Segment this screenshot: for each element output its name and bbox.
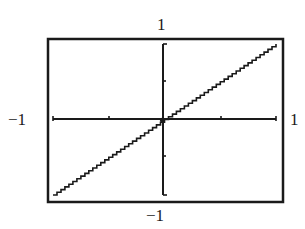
origin-point xyxy=(160,118,164,122)
xmin-label: −1 xyxy=(8,111,26,128)
graph xyxy=(0,0,305,229)
ymax-label: 1 xyxy=(157,16,166,33)
ymin-label: −1 xyxy=(146,207,164,224)
xmax-label: 1 xyxy=(290,111,299,128)
